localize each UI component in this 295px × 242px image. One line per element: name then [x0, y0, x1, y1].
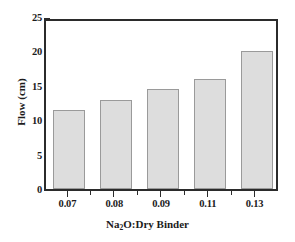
- y-tick-label: 15: [32, 81, 42, 92]
- x-tick-minor: [231, 191, 232, 195]
- y-tick-label: 20: [32, 46, 42, 57]
- bar: [241, 51, 273, 189]
- x-tick-label: 0.07: [59, 198, 77, 209]
- x-axis-title-suffix: O:Dry Binder: [123, 218, 189, 230]
- x-tick-label: 0.09: [152, 198, 170, 209]
- x-tick-label: 0.13: [246, 198, 264, 209]
- x-tick-label: 0.11: [199, 198, 216, 209]
- x-tick-major: [207, 191, 208, 197]
- bars-layer: [46, 21, 276, 189]
- x-axis-title-subscript: 2: [120, 223, 124, 232]
- plot-area: [44, 19, 278, 191]
- x-tick-minor: [90, 191, 91, 195]
- x-axis-title-prefix: Na: [106, 218, 119, 230]
- x-tick-minor: [137, 191, 138, 195]
- y-axis-title: Flow (cm): [15, 47, 27, 157]
- x-tick-minor: [184, 191, 185, 195]
- x-tick-major: [113, 191, 114, 197]
- y-tick-label: 10: [32, 115, 42, 126]
- y-tick-label: 0: [37, 184, 42, 195]
- chart-figure: 0510152025 0.070.080.090.110.13 Flow (cm…: [0, 0, 295, 242]
- y-tick-label: 25: [32, 12, 42, 23]
- x-axis-title: Na2O:Dry Binder: [0, 218, 295, 230]
- x-tick-major: [67, 191, 68, 197]
- bar: [194, 79, 226, 189]
- bar: [147, 89, 179, 189]
- bar: [100, 100, 132, 189]
- x-tick-label: 0.08: [105, 198, 123, 209]
- x-tick-major: [160, 191, 161, 197]
- x-tick-major: [254, 191, 255, 197]
- bar: [53, 110, 85, 189]
- y-tick-label: 5: [37, 150, 42, 161]
